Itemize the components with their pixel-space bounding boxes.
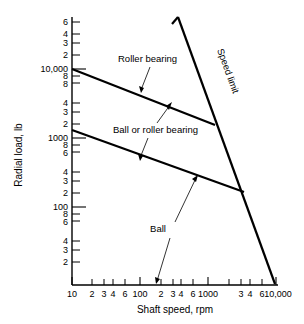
y-tick-label: 2 [63, 119, 68, 129]
x-tick-label: 3 [101, 289, 106, 299]
x-tick-label: 10 [67, 289, 77, 299]
x-tick-label: 1000 [198, 289, 218, 299]
x-axis-title: Shaft speed, rpm [137, 304, 213, 315]
y-tick-label: 8 [63, 79, 68, 89]
y-tick-label: 2 [63, 50, 68, 60]
annotation-ball-or-roller-bearing-label: Ball or roller bearing [113, 124, 198, 135]
x-tick-label: 100 [132, 289, 147, 299]
x-tick-label: 3 [170, 289, 175, 299]
curve-roller-bearing [72, 69, 215, 125]
annotation-roller-bearing-label: Roller bearing [118, 53, 177, 64]
y-tick-label: 3 [63, 176, 68, 186]
leader-line-ball-lower [157, 238, 170, 281]
x-axis-ticks [72, 277, 276, 285]
y-tick-label: 6 [63, 17, 68, 27]
y-axis-tick-labels: 6 4 3 2 10,000 8 8 4 3 2 1000 8 6 4 3 2 … [40, 17, 68, 267]
y-tick-label: 3 [63, 107, 68, 117]
y-tick-label: 3 [63, 38, 68, 48]
x-tick-label: 4 [247, 289, 252, 299]
x-tick-label: 4 [178, 289, 183, 299]
x-tick-label: 6 [122, 289, 127, 299]
annotation-ball: Ball [150, 175, 198, 284]
leader-line-ball-upper [175, 178, 196, 222]
y-tick-label: 6 [63, 148, 68, 158]
x-tick-label: 2 [158, 289, 163, 299]
arrowhead-roller-bearing [139, 86, 144, 93]
y-tick-label: 6 [63, 217, 68, 227]
arrowhead-ball-curve [192, 175, 198, 182]
x-tick-label: 2 [89, 289, 94, 299]
x-tick-label: 4 [110, 289, 115, 299]
annotation-ball-or-roller-bearing: Ball or roller bearing [113, 102, 198, 161]
x-tick-label: 10,000 [264, 289, 292, 299]
y-tick-label: 3 [63, 245, 68, 255]
arrowhead-ball-axis [155, 277, 160, 284]
chart-canvas: 6 4 3 2 10,000 8 8 4 3 2 1000 8 6 4 3 2 … [0, 0, 304, 324]
y-tick-label: 2 [63, 257, 68, 267]
annotation-roller-bearing: Roller bearing [118, 53, 177, 93]
x-tick-label: 6 [190, 289, 195, 299]
y-tick-label: 2 [63, 188, 68, 198]
annotation-ball-label: Ball [150, 223, 166, 234]
leader-line-roller-bearing [141, 67, 150, 90]
x-tick-label: 3 [238, 289, 243, 299]
curve-ball-or-roller-bearing [72, 130, 244, 192]
x-axis-tick-labels: 10 2 3 4 6 100 2 3 4 6 1000 3 4 6 10,000 [67, 289, 292, 299]
curve-speed-limit-apex [172, 17, 178, 24]
annotation-speed-limit-label: Speed limit [215, 47, 242, 95]
bearing-selection-chart: 6 4 3 2 10,000 8 8 4 3 2 1000 8 6 4 3 2 … [0, 0, 304, 324]
y-axis-title: Radial load, lb [13, 123, 24, 187]
y-axis-ticks [72, 22, 86, 262]
